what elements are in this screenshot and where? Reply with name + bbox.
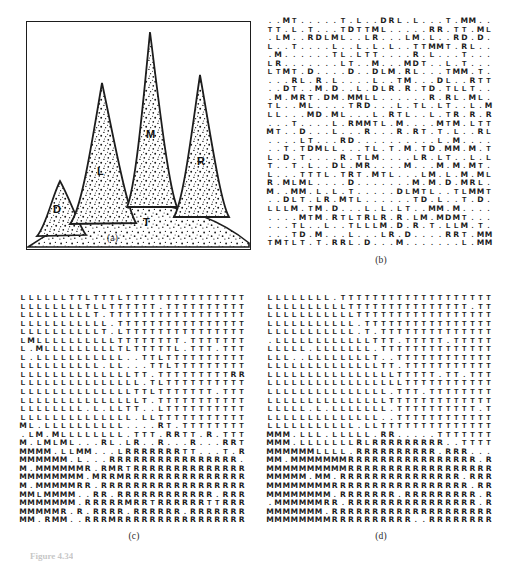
grid-cell-dot: . (274, 85, 282, 94)
grid-cell-l: L (347, 231, 355, 240)
grid-cell-r: R (436, 491, 444, 500)
grid-cell-dot: . (387, 188, 395, 197)
grid-cell-l: L (92, 414, 100, 423)
grid-cell-dot: . (339, 179, 347, 188)
grid-cell-m: M (266, 516, 274, 525)
grid-cell-d: D (315, 111, 323, 120)
grid-cell-t: T (371, 303, 379, 312)
grid-cell-t: T (221, 388, 229, 397)
grid-cell-r: R (165, 465, 173, 474)
grid-cell-dot: . (331, 222, 339, 231)
grid-cell-t: T (189, 405, 197, 414)
grid-cell-dot: . (428, 162, 436, 171)
grid-cell-l: L (379, 388, 387, 397)
grid-cell-m: M (315, 214, 323, 223)
grid-cell-r: R (100, 482, 108, 491)
grid-cell-r: R (339, 491, 347, 500)
grid-cell-t: T (485, 328, 493, 337)
grid-cell-l: L (59, 422, 67, 431)
grid-cell-dot: . (468, 171, 476, 180)
grid-cell-t: T (452, 388, 460, 397)
grid-cell-t: T (140, 354, 148, 363)
grid-cell-r: R (460, 482, 468, 491)
grid-cell-t: T (173, 311, 181, 320)
grid-cell-r: R (428, 465, 436, 474)
grid-cell-r: R (452, 499, 460, 508)
grid-cell-l: L (363, 337, 371, 346)
grid-cell-dot: . (331, 137, 339, 146)
grid-cell-m: M (59, 456, 67, 465)
grid-cell-r: R (181, 456, 189, 465)
grid-cell-t: T (213, 337, 221, 346)
grid-cell-r: R (140, 465, 148, 474)
grid-cell-l: L (116, 448, 124, 457)
grid-cell-m: M (35, 448, 43, 457)
grid-cell-l: L (266, 414, 274, 423)
grid-cell-l: L (412, 154, 420, 163)
grid-cell-l: L (379, 405, 387, 414)
grid-cell-l: L (339, 337, 347, 346)
grid-cell-dot: . (266, 499, 274, 508)
grid-cell-l: L (68, 362, 76, 371)
grid-cell-dot: . (476, 205, 484, 214)
grid-cell-l: L (363, 222, 371, 231)
grid-cell-l: L (51, 439, 59, 448)
grid-cell-l: L (35, 362, 43, 371)
grid-cell-t: T (181, 328, 189, 337)
grid-row: LLLLLLLLLLT.LTTTTTTTTTTTTTTT (19, 328, 249, 337)
grid-cell-dot: . (355, 422, 363, 431)
grid-row: LLLLLLLLLLLLLLLLLTTTTTTTTTTT (266, 379, 496, 388)
grid-cell-r: R (363, 465, 371, 474)
grid-cell-t: T (306, 171, 314, 180)
grid-cell-l: L (290, 179, 298, 188)
grid-cell-t: T (197, 303, 205, 312)
grid-cell-r: R (266, 179, 274, 188)
grid-cell-dot: . (452, 102, 460, 111)
grid-cell-d: D (396, 222, 404, 231)
grid-cell-r: R (379, 499, 387, 508)
label-r: R (197, 155, 205, 167)
grid-cell-l: L (76, 379, 84, 388)
grid-cell-t: T (189, 345, 197, 354)
grid-cell-t: T (238, 388, 246, 397)
grid-cell-t: T (444, 388, 452, 397)
grid-cell-r: R (339, 154, 347, 163)
grid-cell-t: T (444, 294, 452, 303)
grid-cell-l: L (43, 303, 51, 312)
grid-cell-t: T (468, 431, 476, 440)
grid-cell-dot: . (412, 162, 420, 171)
grid-cell-t: T (476, 120, 484, 129)
grid-cell-m: M (460, 222, 468, 231)
grid-cell-t: T (157, 337, 165, 346)
grid-cell-t: T (140, 311, 148, 320)
grid-cell-m: M (76, 465, 84, 474)
grid-cell-dot: . (452, 196, 460, 205)
grid-cell-r: R (363, 482, 371, 491)
grid-cell-t: T (229, 414, 237, 423)
grid-cell-l: L (444, 60, 452, 69)
grid-cell-dot: . (149, 422, 157, 431)
grid-cell-r: R (197, 499, 205, 508)
grid-cell-dot: . (347, 154, 355, 163)
grid-cell-dot: . (485, 43, 493, 52)
grid-cell-t: T (460, 379, 468, 388)
grid-cell-dot: . (485, 17, 493, 26)
grid-cell-m: M (339, 465, 347, 474)
grid-cell-t: T (460, 26, 468, 35)
grid-cell-t: T (476, 337, 484, 346)
grid-cell-l: L (355, 431, 363, 440)
grid-cell-l: L (323, 414, 331, 423)
grid-cell-r: R (396, 473, 404, 482)
grid-cell-l: L (363, 379, 371, 388)
grid-cell-t: T (213, 354, 221, 363)
grid-cell-l: L (108, 414, 116, 423)
grid-cell-r: R (165, 499, 173, 508)
grid-row: LLLLL.L.LLLLLLL.TTTTTTTTTT.T (266, 405, 496, 414)
grid-cell-dot: . (306, 196, 314, 205)
grid-cell-t: T (452, 337, 460, 346)
grid-cell-l: L (363, 439, 371, 448)
grid-cell-l: L (51, 371, 59, 380)
grid-cell-t: T (363, 51, 371, 60)
grid-cell-dot: . (412, 171, 420, 180)
grid-cell-l: L (387, 371, 395, 380)
